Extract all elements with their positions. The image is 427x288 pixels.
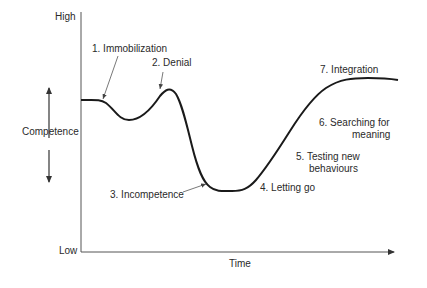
stage-2-label: 2. Denial <box>152 57 191 68</box>
stage-5-label-line1: 5. Testing new <box>296 151 361 162</box>
stage-4-label: 4. Letting go <box>260 182 315 193</box>
y-low-label: Low <box>59 245 78 256</box>
y-axis-title: Competence <box>22 126 79 137</box>
stage-5-label-line2: behaviours <box>309 163 358 174</box>
leader-incompetence <box>183 184 206 192</box>
stage-6-label-line2: meaning <box>352 129 390 140</box>
leader-immobilization <box>103 56 118 99</box>
stage-3-label: 3. Incompetence <box>110 189 184 200</box>
y-high-label: High <box>55 11 76 22</box>
x-axis-title: Time <box>229 258 251 269</box>
stage-7-label: 7. Integration <box>320 64 378 75</box>
change-curve-diagram: High Low Competence Time 1. Immobilizati… <box>0 0 427 288</box>
leader-denial <box>160 72 163 89</box>
stage-6-label-line1: 6. Searching for <box>319 117 390 128</box>
stage-1-label: 1. Immobilization <box>92 43 167 54</box>
competence-curve <box>81 78 398 191</box>
